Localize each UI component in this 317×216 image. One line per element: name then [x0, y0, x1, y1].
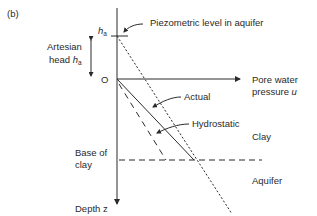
base-of-clay-label-1: Base of: [75, 147, 108, 158]
hydrostatic-line: [119, 84, 166, 160]
clay-label: Clay: [252, 131, 271, 142]
x-axis-label-1: Pore water: [252, 74, 298, 85]
x-axis-label-2: pressure u: [252, 86, 298, 97]
hydrostatic-label: Hydrostatic: [192, 118, 240, 129]
hydrostatic-pointer: [157, 124, 189, 133]
artesian-label-2: head ha: [49, 54, 82, 66]
actual-line: [117, 79, 194, 160]
piezometric-label: Piezometric level in aquifer: [150, 17, 264, 28]
artesian-label-1: Artesian: [47, 41, 82, 52]
aquifer-label: Aquifer: [252, 175, 282, 186]
depth-label: Depth z: [75, 203, 108, 214]
actual-label: Actual: [184, 91, 210, 102]
pore-pressure-diagram: (b) ha Artesian head ha O Piezometric le…: [0, 0, 317, 216]
piezometric-pointer: [124, 24, 143, 32]
ha-label: ha: [98, 25, 107, 37]
panel-label: (b): [7, 8, 19, 19]
actual-pointer: [153, 97, 181, 107]
origin-label: O: [101, 74, 108, 85]
base-of-clay-label-2: clay: [75, 159, 92, 170]
